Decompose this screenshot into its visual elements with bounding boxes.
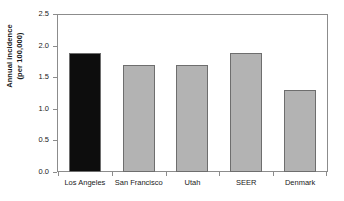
x-axis-label: San Francisco <box>115 178 163 187</box>
bars-layer <box>58 15 327 172</box>
x-axis-label: SEER <box>236 178 256 187</box>
bar[interactable] <box>284 90 316 172</box>
x-axis-label: Denmark <box>285 178 315 187</box>
y-axis-tick-mark <box>53 172 57 173</box>
y-axis-tick-label: 1.5 <box>39 72 49 81</box>
bar[interactable] <box>176 65 208 172</box>
y-axis-tick-label: 1.0 <box>39 104 49 113</box>
x-axis-tick-mark <box>112 172 113 176</box>
bar-slot <box>58 15 112 172</box>
y-axis-tick-label: 0.0 <box>39 167 49 176</box>
bar[interactable] <box>123 65 155 172</box>
y-axis: 0.00.51.01.52.02.5 <box>0 0 57 201</box>
y-axis-tick-label: 0.5 <box>39 135 49 144</box>
bar-slot <box>219 15 273 172</box>
x-axis-tick-mark <box>166 172 167 176</box>
bar-slot <box>166 15 220 172</box>
bar[interactable] <box>69 53 101 172</box>
x-axis-tick-mark <box>219 172 220 176</box>
bar-slot <box>112 15 166 172</box>
bar-slot <box>273 15 327 172</box>
x-axis-tick-mark <box>273 172 274 176</box>
x-axis-label: Los Angeles <box>64 178 105 187</box>
bar-chart: Annual incidence (per 100,000) 0.00.51.0… <box>0 0 344 201</box>
y-axis-tick-label: 2.5 <box>39 9 49 18</box>
bar[interactable] <box>230 53 262 172</box>
x-axis-tick-mark <box>326 172 327 176</box>
x-axis-labels: Los AngelesSan FranciscoUtahSEERDenmark <box>58 178 327 192</box>
x-axis-label: Utah <box>185 178 201 187</box>
x-axis-ticks <box>58 172 327 177</box>
x-axis-tick-mark <box>58 172 59 176</box>
y-axis-tick-label: 2.0 <box>39 41 49 50</box>
